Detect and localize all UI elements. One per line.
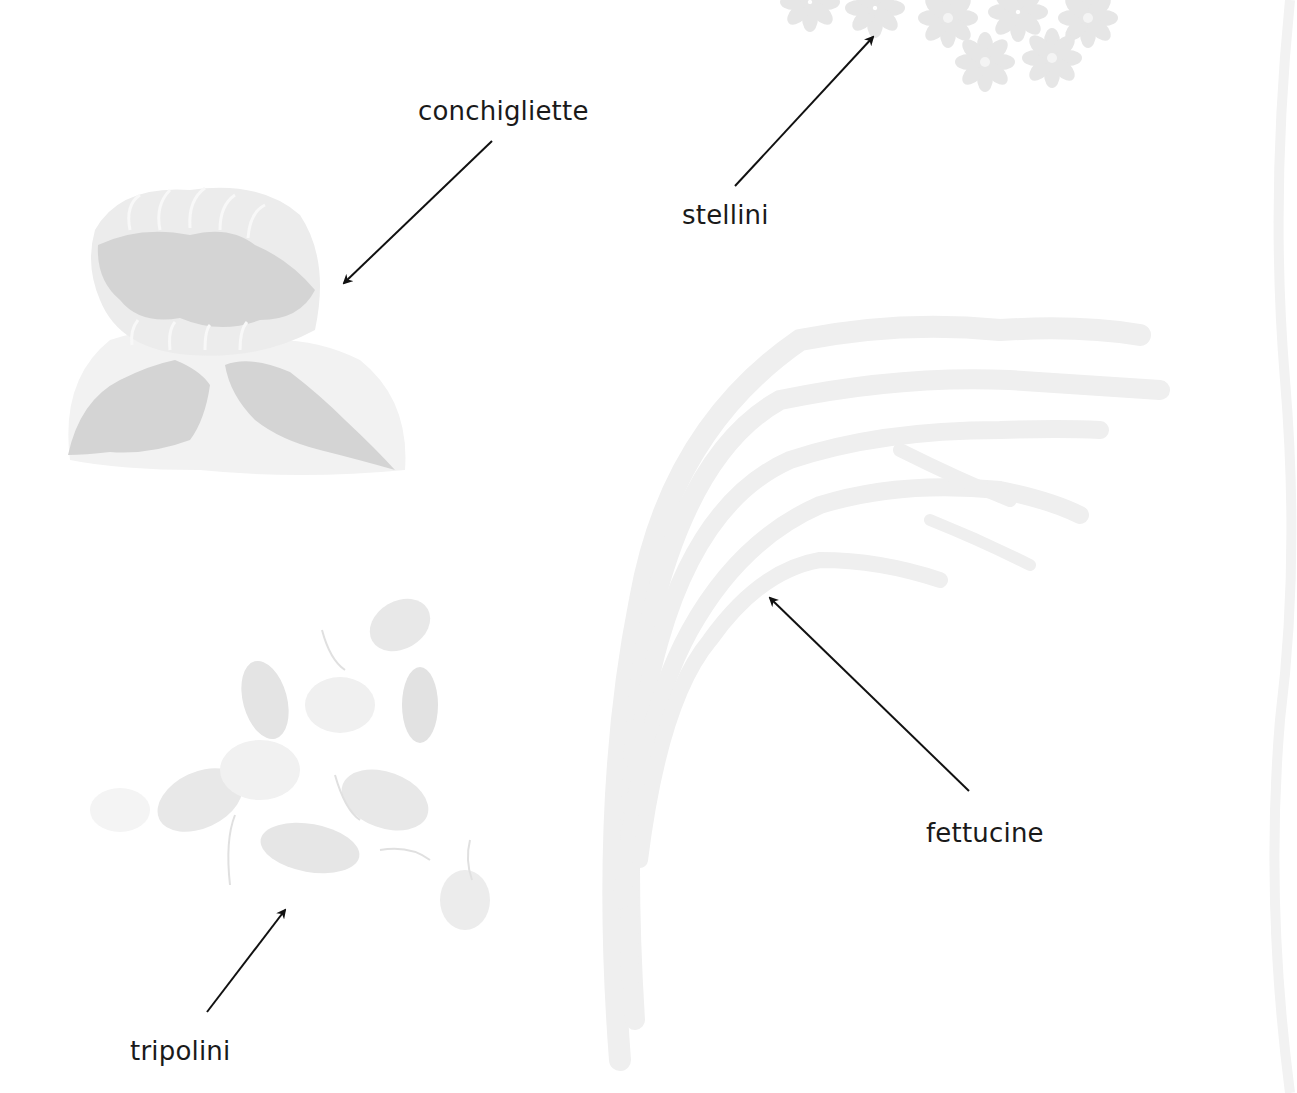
- edge-strand-illustration: [1274, 0, 1291, 1093]
- tripolini-illustration: [90, 588, 490, 930]
- label-conchigliette: conchigliette: [418, 98, 589, 124]
- label-tripolini: tripolini: [130, 1038, 230, 1064]
- stellini-illustration: [780, 0, 1118, 92]
- conchigliette-illustration: [68, 188, 405, 475]
- arrow-stellini: [735, 37, 873, 186]
- pasta-diagram: conchigliette stellini fettucine tripoli…: [0, 0, 1297, 1093]
- arrow-tripolini: [207, 910, 285, 1012]
- fettucine-illustration: [613, 327, 1160, 1060]
- label-fettucine: fettucine: [926, 820, 1044, 846]
- label-stellini: stellini: [682, 202, 769, 228]
- arrow-fettucine: [770, 598, 969, 791]
- arrow-conchigliette: [344, 141, 492, 283]
- pasta-illustrations: [0, 0, 1297, 1093]
